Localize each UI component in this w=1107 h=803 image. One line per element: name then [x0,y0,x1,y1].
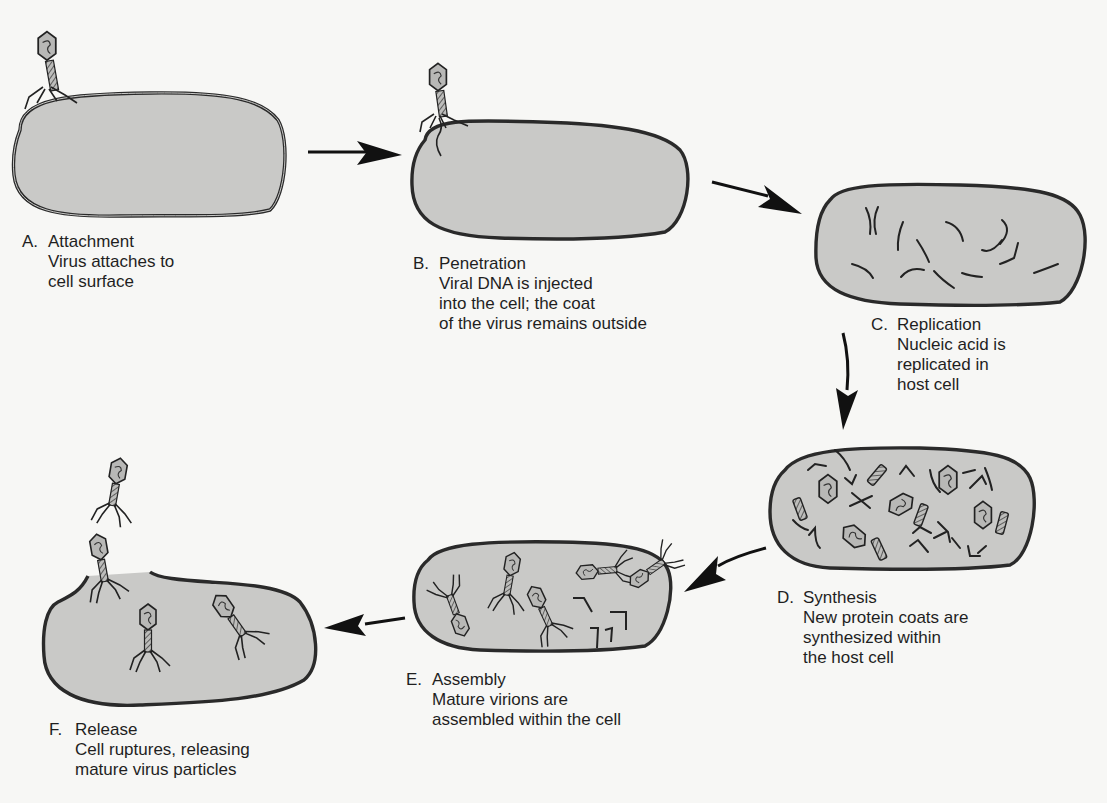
stage-letter: E. [406,670,432,690]
stage-letter: A. [22,232,48,252]
caption-penetration: B.Penetration Viral DNA is injected into… [413,254,647,334]
stage-description: Nucleic acid is replicated in host cell [871,335,1006,395]
caption-assembly: E.Assembly Mature virions are assembled … [406,670,621,730]
stage-c-replication [816,184,1085,305]
stage-title: Replication [897,315,981,335]
arrow-b-to-c-icon [712,182,802,214]
stage-title: Attachment [48,232,134,252]
arrow-d-to-e-icon [684,548,766,592]
stage-description: Virus attaches to cell surface [22,252,174,292]
arrow-a-to-b-icon [308,141,402,165]
stage-letter: F. [49,720,75,740]
arrow-c-to-d-icon [836,333,858,430]
stage-letter: D. [777,588,803,608]
caption-replication: C.Replication Nucleic acid is replicated… [871,315,1006,395]
host-cell [412,121,688,239]
bacteriophage-icon [25,32,77,109]
stage-a-attachment [13,32,285,217]
stage-description: Mature virions are assembled within the … [406,690,621,730]
host-cell [13,93,285,216]
arrow-e-to-f-icon [324,614,405,636]
stage-letter: B. [413,254,439,274]
caption-release: F.Release Cell ruptures, releasing matur… [49,720,250,780]
stage-description: Viral DNA is injected into the cell; the… [413,274,647,334]
stage-description: Cell ruptures, releasing mature virus pa… [49,740,250,780]
stage-title: Assembly [432,670,506,690]
stage-d-synthesis [770,448,1034,569]
stage-e-assembly [414,536,687,651]
stage-f-release [44,455,316,705]
ruptured-host-cell [44,572,316,705]
stage-title: Synthesis [803,588,877,608]
stage-letter: C. [871,315,897,335]
stage-b-penetration [412,63,688,239]
stage-title: Release [75,720,137,740]
caption-synthesis: D.Synthesis New protein coats are synthe… [777,588,968,668]
stage-description: New protein coats are synthesized within… [777,608,968,668]
caption-attachment: A.Attachment Virus attaches to cell surf… [22,232,174,292]
host-cell [816,184,1085,305]
stage-title: Penetration [439,254,526,274]
